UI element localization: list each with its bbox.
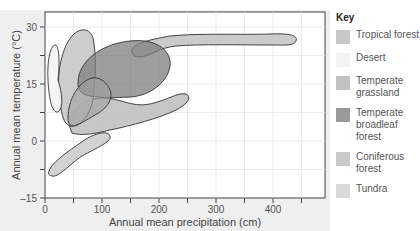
- legend-label: Temperate grassland: [356, 75, 414, 99]
- legend-item-tropical-forest: Tropical forest: [336, 29, 420, 44]
- x-tick-label: 300: [208, 204, 225, 215]
- legend-label: Coniferous forest: [356, 151, 414, 175]
- x-tick-label: 400: [265, 204, 282, 215]
- x-axis-label: Annual mean precipitation (cm): [109, 216, 261, 228]
- tundra-swatch: [336, 184, 350, 198]
- y-ticks: [40, 27, 45, 198]
- legend-item-temperate-grassland: Temperate grassland: [336, 75, 420, 99]
- x-tick-label: 100: [94, 204, 111, 215]
- legend: Key Tropical forest Desert Temperate gra…: [336, 8, 420, 206]
- biome-chart: 30 15 0 –15 0 100 200 300 400 Annual mea…: [0, 0, 330, 231]
- legend-item-coniferous-forest: Coniferous forest: [336, 151, 420, 175]
- legend-item-tundra: Tundra: [336, 183, 420, 198]
- temperate-broadleaf-forest-swatch: [336, 108, 350, 122]
- desert-swatch: [336, 53, 350, 67]
- x-tick-label: 200: [151, 204, 168, 215]
- legend-label: Temperate broadleaf forest: [356, 107, 414, 143]
- y-tick-label: –15: [20, 193, 37, 204]
- y-axis-label: Annual mean temperature (°C): [10, 30, 22, 180]
- legend-item-temperate-broadleaf-forest: Temperate broadleaf forest: [336, 107, 420, 143]
- legend-label: Tundra: [356, 183, 387, 195]
- legend-label: Desert: [356, 52, 385, 64]
- legend-title: Key: [336, 12, 420, 23]
- legend-label: Tropical forest: [356, 29, 419, 41]
- y-tick-label: 15: [26, 79, 38, 90]
- y-tick-label: 30: [26, 22, 38, 33]
- legend-item-desert: Desert: [336, 52, 420, 67]
- tropical-forest-swatch: [336, 30, 350, 44]
- temperate-grassland-swatch: [336, 76, 350, 90]
- coniferous-forest-swatch: [336, 152, 350, 166]
- y-tick-label: 0: [31, 136, 37, 147]
- x-tick-label: 0: [42, 204, 48, 215]
- x-ticks: [45, 198, 302, 203]
